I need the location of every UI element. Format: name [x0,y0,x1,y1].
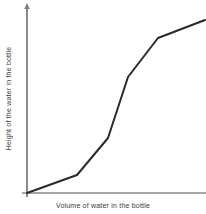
y-axis-arrow-icon [24,3,30,9]
y-axis-label-container: Height of the water in the bottle [0,0,18,196]
chart-container: Height of the water in the bottle Volume… [0,0,206,214]
chart-plot-area [0,0,206,214]
y-axis-label: Height of the water in the bottle [5,46,14,150]
axes-group [22,3,206,197]
data-series-line [27,20,205,193]
x-axis-label: Volume of water in the bottle [0,201,206,210]
